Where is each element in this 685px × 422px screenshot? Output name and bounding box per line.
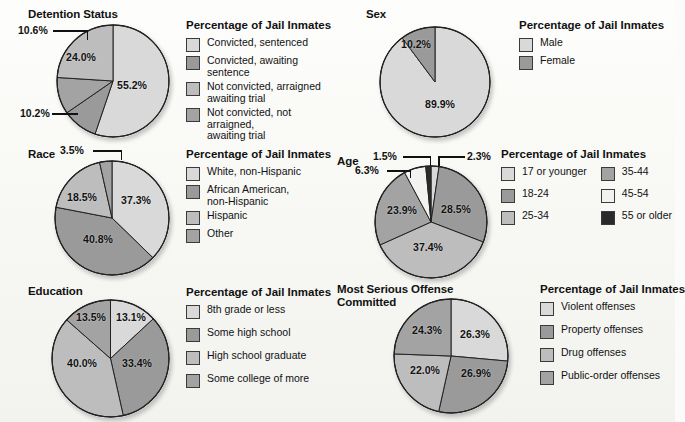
legend-item-convicted-awaiting-sentence[interactable]: Convicted, awaiting sentence: [186, 55, 335, 78]
slice-label-8th-grade-or-less: 13.1%: [116, 311, 146, 323]
panel-race: Race 37.3% 40.8% 18.5% 3.5% Percentage o…: [0, 142, 335, 277]
legend-swatch-icon: [540, 371, 554, 385]
legend-item-public-order-offenses[interactable]: Public-order offenses: [540, 370, 660, 385]
slice-label-public-order-offenses: 24.3%: [412, 324, 442, 336]
legend-item-not-convicted-arraigned[interactable]: Not convicted, arraigned awaiting trial: [186, 81, 335, 104]
legend-item-label: Some college of more: [207, 373, 309, 385]
legend-swatch-icon: [501, 189, 515, 203]
slice-label-some-college: 13.5%: [76, 311, 106, 323]
legend-item-high-school-graduate[interactable]: High school graduate: [186, 350, 309, 365]
legend-item-label: 17 or younger: [522, 166, 587, 178]
legend-item-label: 8th grade or less: [207, 304, 285, 316]
legend-swatch-icon: [519, 38, 533, 52]
legend-swatch-icon: [540, 348, 554, 362]
leader-tick-23: [438, 156, 440, 166]
legend-item-male[interactable]: Male: [519, 37, 575, 52]
legend-swatch-icon: [186, 328, 200, 342]
legend-item-18-24[interactable]: 18-24: [501, 188, 587, 203]
legend-most-serious-offense: Percentage of Jail Inmates Violent offen…: [540, 283, 685, 388]
legend-item-label: 18-24: [522, 188, 549, 200]
slice-label-property-offenses: 26.9%: [461, 367, 491, 379]
pie-age: [374, 165, 488, 279]
legend-swatch-icon: [519, 56, 533, 70]
legend-swatch-icon: [186, 108, 200, 122]
slice-label-male: 89.9%: [425, 98, 455, 110]
legend-item-label: 25-34: [522, 210, 549, 222]
legend-swatch-icon: [601, 167, 615, 181]
legend-item-african-american[interactable]: African American, non-Hispanic: [186, 184, 301, 207]
legend-education: Percentage of Jail Inmates 8th grade or …: [186, 286, 331, 391]
legend-item-drug-offenses[interactable]: Drug offenses: [540, 347, 660, 362]
legend-item-17-or-younger[interactable]: 17 or younger: [501, 166, 587, 181]
pie-svg: [374, 165, 488, 279]
legend-item-55-or-older[interactable]: 55 or older: [601, 210, 672, 225]
leader-line-35: [93, 150, 122, 152]
chart-title-education: Education: [28, 285, 83, 298]
legend-item-other[interactable]: Other: [186, 228, 301, 243]
slice-label-not-convicted-arraigned: 24.0%: [66, 51, 96, 63]
legend-swatch-icon: [501, 167, 515, 181]
legend-item-label: Convicted, awaiting sentence: [207, 55, 335, 78]
legend-item-label: Convicted, sentenced: [207, 37, 308, 49]
legend-swatch-icon: [501, 211, 515, 225]
legend-item-label: Property offenses: [561, 324, 643, 336]
legend-title: Percentage of Jail Inmates: [540, 283, 685, 295]
legend-item-female[interactable]: Female: [519, 55, 575, 70]
legend-item-25-34[interactable]: 25-34: [501, 210, 587, 225]
legend-item-not-convicted-not-arraigned[interactable]: Not convicted, not arraigned, awaiting t…: [186, 107, 335, 142]
legend-item-convicted-sentenced[interactable]: Convicted, sentenced: [186, 37, 335, 52]
legend-item-label: Not convicted, not arraigned, awaiting t…: [207, 107, 335, 142]
leader-tick-63: [410, 170, 412, 178]
leader-line-106: [53, 30, 88, 32]
slice-label-other: 3.5%: [60, 144, 84, 156]
legend-item-label: Hispanic: [207, 210, 247, 222]
legend-item-some-high-school[interactable]: Some high school: [186, 327, 309, 342]
chart-title-detention-status: Detention Status: [28, 8, 118, 21]
legend-swatch-icon: [186, 374, 200, 388]
legend-item-label: Public-order offenses: [561, 370, 660, 382]
legend-age: Percentage of Jail Inmates 17 or younger…: [501, 148, 672, 228]
slice-label-african-american: 40.8%: [83, 233, 113, 245]
slice-label-female: 10.2%: [401, 38, 431, 50]
legend-sex: Percentage of Jail Inmates Male Female: [519, 19, 664, 73]
legend-item-hispanic[interactable]: Hispanic: [186, 210, 301, 225]
panel-most-serious-offense: Most Serious Offense Committed 26.3% 26.…: [335, 277, 675, 422]
legend-item-35-44[interactable]: 35-44: [601, 166, 672, 181]
slice-label-not-convicted-not-arraigned: 10.6%: [18, 24, 48, 36]
pie-svg: [54, 160, 170, 276]
pie-sex: [379, 26, 491, 138]
legend-swatch-icon: [186, 185, 200, 199]
legend-swatch-icon: [186, 38, 200, 52]
slice-label-convicted-awaiting: 10.2%: [20, 107, 50, 119]
legend-swatch-icon: [186, 82, 200, 96]
legend-swatch-icon: [186, 56, 200, 70]
legend-title: Percentage of Jail Inmates: [186, 19, 335, 31]
legend-item-45-54[interactable]: 45-54: [601, 188, 672, 203]
slice-label-18-24: 28.5%: [441, 203, 471, 215]
legend-item-label: Drug offenses: [561, 347, 626, 359]
legend-swatch-icon: [186, 305, 200, 319]
legend-item-violent-offenses[interactable]: Violent offenses: [540, 301, 660, 316]
slice-label-white: 37.3%: [121, 194, 151, 206]
panel-education: Education 13.1% 33.4% 40.0% 13.5% Percen…: [0, 277, 335, 422]
chart-title-sex: Sex: [366, 8, 386, 21]
legend-swatch-icon: [601, 189, 615, 203]
legend-item-label: Some high school: [207, 327, 290, 339]
legend-detention-status: Percentage of Jail Inmates Convicted, se…: [186, 19, 335, 145]
leader-tick-15: [430, 156, 432, 166]
legend-item-label: Violent offenses: [561, 301, 635, 313]
leader-tick-106: [87, 30, 89, 40]
slice-label-45-54: 6.3%: [355, 164, 379, 176]
legend-item-some-college-or-more[interactable]: Some college of more: [186, 373, 309, 388]
slice-label-convicted-sentenced: 55.2%: [117, 79, 147, 91]
legend-item-property-offenses[interactable]: Property offenses: [540, 324, 660, 339]
pie-svg: [56, 24, 170, 138]
legend-item-white[interactable]: White, non-Hispanic: [186, 166, 301, 181]
legend-race: Percentage of Jail Inmates White, non-Hi…: [186, 148, 331, 246]
legend-item-8th-grade-or-less[interactable]: 8th grade or less: [186, 304, 309, 319]
slice-label-hispanic: 18.5%: [67, 191, 97, 203]
legend-title: Percentage of Jail Inmates: [519, 19, 664, 31]
legend-swatch-icon: [540, 325, 554, 339]
pie-most-serious-offense: [393, 298, 509, 414]
